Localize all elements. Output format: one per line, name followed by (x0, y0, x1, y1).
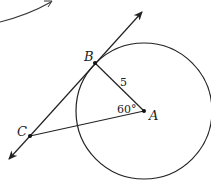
point-c (28, 134, 32, 138)
label-b: B (83, 49, 94, 64)
label-angle-a: 60° (117, 103, 137, 116)
point-b (93, 61, 97, 65)
label-c: C (17, 124, 27, 139)
curved-arrow-icon (0, 2, 51, 22)
label-a: A (148, 108, 158, 123)
point-a (142, 109, 146, 113)
tangent-line-extension (9, 136, 30, 159)
label-ab-length: 5 (120, 76, 127, 89)
geometry-diagram: B A C 5 60° (0, 0, 211, 187)
tangent-line (30, 12, 142, 136)
